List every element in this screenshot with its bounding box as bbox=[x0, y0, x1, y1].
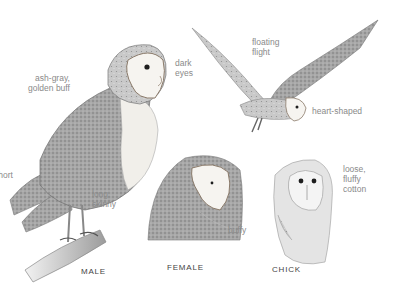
label-heart-shaped: heart-shaped bbox=[312, 106, 362, 116]
label-floating-flight: floating flight bbox=[252, 37, 279, 57]
caption-male: MALE bbox=[81, 267, 106, 276]
label-loose-fluffy-cotton: loose, fluffy cotton bbox=[343, 164, 366, 194]
caption-female: FEMALE bbox=[167, 263, 204, 272]
caption-chick: CHICK bbox=[272, 265, 301, 274]
chick-owl bbox=[274, 160, 333, 264]
barn-owl-illustration: ash-gray, golden buff dark eyes floating… bbox=[0, 0, 401, 293]
label-long-skinny: long, skinny bbox=[92, 189, 116, 209]
label-dark-eyes: dark eyes bbox=[175, 58, 193, 78]
label-short: short bbox=[0, 170, 13, 180]
label-buffy: buffy bbox=[228, 225, 246, 235]
owl-drawings bbox=[0, 0, 401, 293]
label-ash-gray-golden-buff: ash-gray, golden buff bbox=[28, 73, 70, 93]
